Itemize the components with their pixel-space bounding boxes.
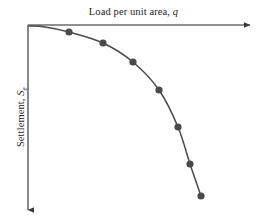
load-settlement-figure: Load per unit area, q Settlement, Se	[0, 0, 267, 223]
x-axis-title-symbol: q	[173, 6, 178, 17]
y-axis-title: Settlement, Se	[15, 47, 29, 187]
axes-group	[28, 25, 250, 210]
y-axis-title-symbol: S	[15, 90, 26, 95]
data-point	[186, 160, 193, 167]
data-point	[99, 39, 106, 46]
data-series-group	[29, 26, 205, 200]
chart-canvas	[0, 0, 267, 223]
load-settlement-curve	[29, 26, 201, 196]
data-point	[155, 86, 162, 93]
data-point	[129, 58, 136, 65]
data-point	[197, 192, 204, 199]
x-axis-title-text: Load per unit area,	[89, 6, 173, 17]
y-axis-title-subscript: e	[20, 87, 29, 90]
data-point	[174, 123, 181, 130]
x-axis-title: Load per unit area, q	[0, 6, 267, 17]
data-point	[65, 28, 72, 35]
y-axis-title-text: Settlement,	[15, 96, 26, 147]
